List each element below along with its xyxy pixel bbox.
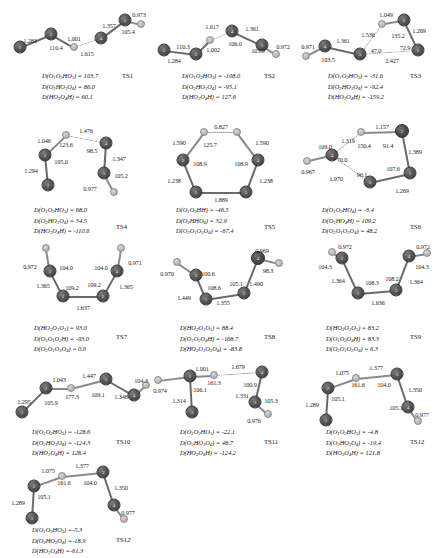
geometry-label: 0.969: [255, 247, 269, 254]
oxygen-atom: 2: [97, 290, 110, 303]
transition-state-label: TS2: [264, 72, 275, 79]
dihedral-angle-line: D(O1O2HO3) = -108.0: [182, 72, 240, 83]
geometry-label: 104.0: [94, 264, 108, 271]
oxygen-atom: 4: [95, 32, 108, 45]
dihedral-angle-list: D(O1O2HO3) = 68.0D(O2HO3O4) = 54.5D(HO3O…: [34, 206, 90, 238]
dihedral-angle-line: D(O2HO3O4) = 54.5: [34, 217, 90, 228]
oxygen-atom: 3: [390, 284, 403, 297]
geometry-label: 103.5: [321, 56, 335, 63]
geometry-label: 105.3: [264, 397, 278, 404]
geometry-label: 110.3: [176, 43, 189, 50]
oxygen-atom: 4: [319, 40, 332, 53]
geometry-label: 1.449: [177, 294, 191, 301]
dihedral-angle-line: D(O1HO4H) = 109.2: [322, 217, 377, 228]
geometry-label: 108.9: [193, 160, 207, 167]
dihedral-angle-line: D(HO3O4H) = -124.2: [180, 449, 236, 460]
geometry-label: 1.075: [41, 467, 55, 474]
dihedral-angle-line: D(O2HO3O4) = -19.4: [326, 439, 381, 450]
oxygen-atom: 4: [256, 366, 269, 379]
geometry-label: 1.347: [112, 155, 126, 162]
oxygen-atom: 5: [100, 373, 113, 386]
dihedral-angle-list: D(O1O2HO3) = -4.8D(O2HO3O4) = -19.4D(HO3…: [326, 428, 381, 460]
oxygen-atom: 4: [100, 137, 113, 150]
transition-state-label: TS9: [410, 333, 421, 340]
geometry-label: 104.0: [59, 264, 73, 271]
geometry-label: 105.1: [331, 395, 345, 402]
oxygen-atom: 2: [322, 382, 335, 395]
hydrogen-atom: [120, 515, 128, 523]
oxygen-atom: 5: [249, 396, 262, 409]
geometry-label: 1.365: [119, 283, 133, 290]
transition-state-label: TS10: [116, 438, 130, 445]
dihedral-angle-list: D(HO2O1O3) = 83.2D(O1O2O4H) = 83.3D(O2O1…: [326, 324, 379, 356]
geometry-label: 105.1: [229, 280, 243, 287]
geometry-label: 1.377: [369, 364, 383, 371]
geometry-label: 1.295: [17, 398, 31, 405]
geometry-label: 109.0: [318, 143, 332, 150]
geometry-label: 1.001: [67, 35, 81, 42]
dihedral-angle-line: D(O2O1O2O4) = 6.3: [326, 345, 379, 356]
geometry-label: 1.536: [361, 31, 375, 38]
geometry-label: 1.294: [24, 167, 38, 174]
oxygen-atom: 3: [391, 368, 404, 381]
geometry-label: 0.977: [415, 411, 429, 418]
bond: [196, 192, 246, 194]
geometry-label: 1.377: [75, 462, 89, 469]
dihedral-angle-list: D(O1O2HO3) = -31.6D(O2HO3O4) = -92.4D(HO…: [328, 72, 384, 104]
dihedral-angle-line: D(HO3O4H) = -110.6: [34, 227, 90, 238]
geometry-label: 100.6: [201, 270, 215, 277]
dihedral-angle-line: D(HO2O1O3) = 83.2: [326, 324, 379, 335]
oxygen-atom: 5: [240, 186, 253, 199]
dihedral-angle-line: D(HO3O4H) = 128.4: [32, 449, 90, 460]
geometry-label: 107.6: [386, 165, 400, 172]
geometry-label: 135.2: [391, 32, 405, 39]
geometry-label: 1.284: [167, 57, 181, 64]
geometry-label: 1.636: [371, 299, 385, 306]
geometry-label: 1.615: [80, 50, 94, 57]
geometry-label: 0.967: [301, 168, 315, 175]
geometry-label: 105.1: [389, 404, 403, 411]
geometry-label: 1.289: [305, 401, 319, 408]
dihedral-angle-line: D(O1O2O4H) = 83.3: [326, 335, 379, 346]
geometry-label: 1.361: [336, 37, 350, 44]
dihedral-angle-line: D(O2HO3O4) = -95.1: [182, 83, 240, 94]
hydrogen-atom: [233, 128, 241, 136]
dihedral-angle-line: D(O3O1O2H) = -93.0: [34, 335, 89, 346]
oxygen-atom: 2: [238, 287, 251, 300]
dihedral-angle-list: D(HO3O1O2) = 93.0D(O3O1O2H) = -93.0D(O3O…: [34, 324, 89, 356]
transition-state-label: TS12': [116, 536, 131, 543]
geometry-label: 0.976: [247, 417, 261, 424]
dihedral-angle-line: D(O2HO3O4) =-18.9: [32, 537, 85, 548]
geometry-label: 0.971: [301, 43, 315, 50]
geometry-label: 1.289: [11, 499, 25, 506]
geometry-label: 0.974: [153, 387, 167, 394]
dihedral-angle-line: D(O1O2HO3) =-5.3: [32, 526, 85, 537]
geometry-label: 1.049: [379, 11, 393, 18]
oxygen-atom: 1: [200, 293, 213, 306]
geometry-label: 108.9: [234, 160, 248, 167]
hydrogen-atom: [117, 244, 125, 252]
dihedral-angle-list: D(O1O2HH) = -46.5D(O2HHO4) = 32.9D(O2O1O…: [176, 206, 233, 238]
dihedral-angle-line: D(O1O2HO3) = -128.6: [32, 428, 90, 439]
geometry-label: 1.364: [409, 278, 423, 285]
geometry-label: 110.4: [49, 44, 62, 51]
geometry-label: 105.1: [37, 493, 51, 500]
dihedral-angle-line: D(HO2O1O3O4) = -83.8: [180, 345, 242, 356]
oxygen-atom: 2: [190, 48, 203, 61]
oxygen-atom: 1: [412, 44, 425, 57]
transition-state-label: TS4: [116, 223, 127, 230]
geometry-label: 1.617: [205, 23, 219, 30]
oxygen-atom: 5: [119, 14, 132, 27]
geometry-label: 106.1: [193, 386, 207, 393]
dihedral-angle-line: D(O1O2HO3) = -4.8: [326, 428, 381, 439]
hydrogen-atom: [137, 20, 145, 28]
dihedral-angle-line: D(HO3O4H) = 60.1: [42, 93, 98, 104]
hydrogen-atom: [423, 249, 431, 257]
geometry-label: 100.9: [243, 381, 257, 388]
hydrogen-atom: [110, 188, 118, 196]
geometry-label: 1.269: [412, 27, 426, 34]
transition-state-label: TS11: [264, 438, 278, 445]
geometry-label: 1.043: [52, 376, 66, 383]
hydrogen-atom: [42, 244, 50, 252]
